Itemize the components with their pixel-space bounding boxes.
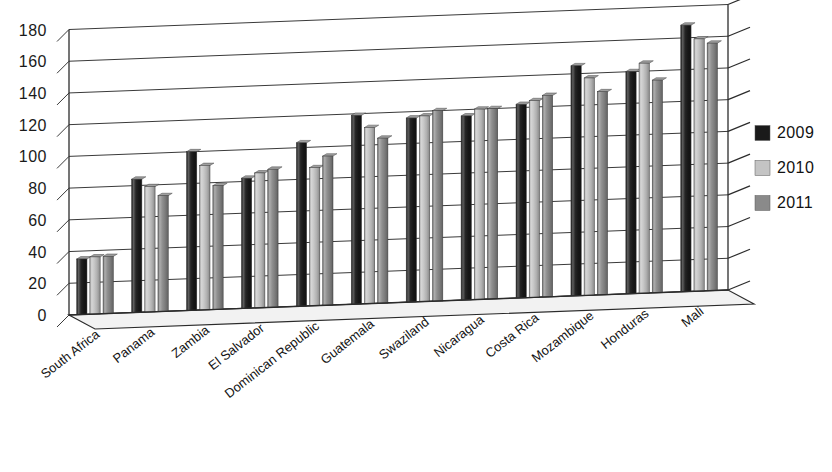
y-tick-label: 20 — [28, 275, 47, 292]
legend-label: 2011 — [777, 194, 813, 211]
bar — [707, 43, 717, 290]
legend-swatch — [755, 196, 770, 211]
y-tick-label: 180 — [19, 22, 47, 39]
x-axis-label: Mali — [678, 304, 706, 331]
right-tick — [728, 27, 750, 36]
bar — [323, 156, 333, 305]
bar — [158, 196, 168, 312]
bar — [516, 104, 526, 298]
bar — [433, 111, 443, 301]
y-tick-label: 40 — [28, 244, 47, 261]
right-tick — [728, 122, 750, 131]
right-tick — [728, 154, 750, 163]
x-axis-label: Guatemala — [318, 316, 378, 367]
bar — [378, 138, 388, 303]
right-tick — [728, 0, 750, 5]
bar — [529, 101, 539, 298]
bar — [626, 72, 636, 294]
bar — [310, 168, 320, 306]
chart-canvas: 180160140120100806040200 South AfricaPan… — [0, 0, 832, 472]
bar — [351, 115, 361, 304]
right-tick — [728, 91, 750, 100]
legend: 200920102011 — [755, 124, 814, 211]
x-axis-label: South Africa — [38, 326, 103, 381]
bar — [364, 128, 374, 304]
x-axis-label: Zambia — [169, 322, 213, 361]
bar-chart: 180160140120100806040200 South AfricaPan… — [0, 0, 832, 472]
y-tick-label: 160 — [19, 53, 47, 70]
bar — [419, 116, 429, 302]
x-axis-label: Mozambique — [529, 308, 597, 366]
y-tick-label: 60 — [28, 212, 47, 229]
x-axis-label: Panama — [110, 324, 158, 366]
bar — [296, 143, 306, 306]
bar — [255, 173, 265, 308]
bar — [200, 166, 210, 310]
y-axis-ticks: 180160140120100806040200 — [19, 22, 47, 325]
x-axis-label: Honduras — [598, 305, 652, 352]
legend-label: 2010 — [777, 159, 814, 176]
right-tick — [728, 59, 750, 68]
bar — [584, 78, 594, 295]
bar — [571, 66, 581, 296]
x-axis-label: Dominican Republic — [222, 318, 323, 401]
y-tick-label: 80 — [28, 180, 47, 197]
bar — [77, 259, 87, 315]
x-axis-label: Swaziland — [376, 314, 432, 362]
bar — [474, 109, 484, 299]
bar — [652, 80, 662, 293]
legend-label: 2009 — [777, 124, 814, 141]
bar — [103, 256, 113, 313]
bar — [597, 92, 607, 295]
bar — [187, 152, 197, 311]
bar — [90, 257, 100, 314]
y-tick-label: 0 — [38, 307, 47, 324]
bar — [681, 25, 691, 291]
bar — [639, 63, 649, 293]
bar — [145, 187, 155, 312]
right-tick — [728, 281, 750, 290]
legend-swatch — [755, 161, 770, 176]
bar — [487, 109, 497, 299]
bar — [694, 39, 704, 291]
y-tick-label: 100 — [19, 148, 47, 165]
right-tick — [728, 249, 750, 258]
bar — [461, 116, 471, 300]
x-axis-label: Nicaragua — [431, 311, 488, 360]
bar — [542, 95, 552, 296]
y-tick-label: 120 — [19, 117, 47, 134]
bar — [132, 179, 142, 312]
bar — [406, 118, 416, 302]
y-tick-label: 140 — [19, 85, 47, 102]
right-tick — [728, 218, 750, 227]
bar — [268, 169, 278, 307]
legend-swatch — [755, 126, 770, 141]
bar — [213, 186, 223, 310]
bar — [241, 178, 251, 308]
right-tick — [728, 186, 750, 195]
